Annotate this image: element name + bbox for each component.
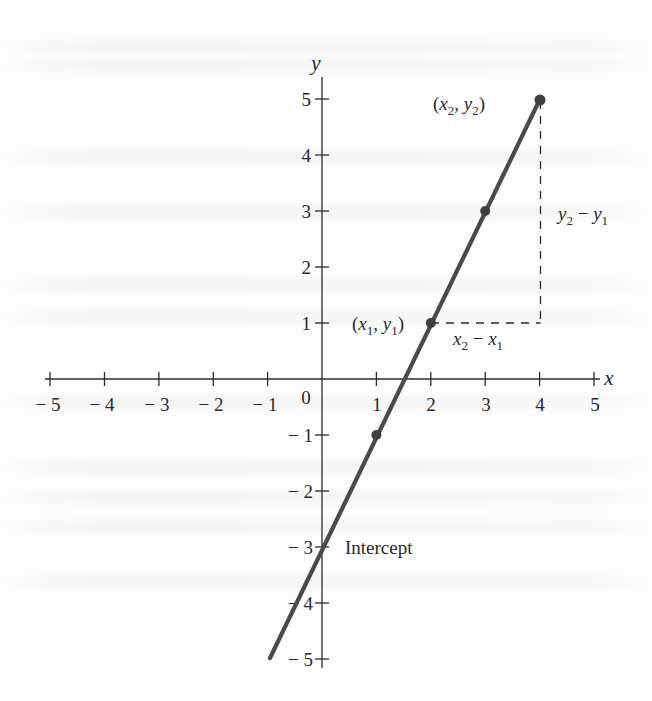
svg-text:− 2: − 2 <box>288 481 313 502</box>
svg-text:− 3: − 3 <box>145 394 170 415</box>
svg-text:− 5: − 5 <box>36 394 61 415</box>
origin-label: 0 <box>301 387 311 408</box>
point-1-neg1 <box>371 430 381 440</box>
svg-text:− 3: − 3 <box>288 537 313 558</box>
y-axis-label: y <box>309 51 321 75</box>
svg-text:1: 1 <box>302 313 312 334</box>
label-rise: y2 − y1 <box>556 203 608 228</box>
svg-text:1: 1 <box>372 394 382 415</box>
point-x1-y1 <box>426 318 436 328</box>
x-tick-labels: − 5 − 4 − 3 − 2 − 1 1 2 3 4 5 <box>36 394 600 415</box>
svg-text:4: 4 <box>302 145 312 166</box>
x-axis-label: x <box>603 366 614 390</box>
svg-text:− 5: − 5 <box>288 649 313 670</box>
svg-text:3: 3 <box>302 201 312 222</box>
svg-text:− 1: − 1 <box>253 394 278 415</box>
coordinate-plane: − 5 − 4 − 3 − 2 − 1 1 2 3 4 5 0 5 4 3 2 … <box>0 0 652 701</box>
svg-text:2: 2 <box>426 394 436 415</box>
svg-text:2: 2 <box>302 257 312 278</box>
svg-text:5: 5 <box>302 89 312 110</box>
point-x2-y2 <box>535 95 546 106</box>
label-x2-y2: (x2, y2) <box>433 93 485 118</box>
label-x1-y1: (x1, y1) <box>352 313 404 338</box>
point-3-3 <box>480 206 490 216</box>
svg-text:− 2: − 2 <box>199 394 224 415</box>
svg-text:5: 5 <box>590 394 600 415</box>
svg-text:3: 3 <box>481 394 491 415</box>
label-run: x2 − x1 <box>452 328 503 353</box>
svg-text:− 1: − 1 <box>288 425 313 446</box>
svg-text:− 4: − 4 <box>90 394 115 415</box>
label-intercept: Intercept <box>345 537 413 558</box>
svg-text:4: 4 <box>535 394 545 415</box>
